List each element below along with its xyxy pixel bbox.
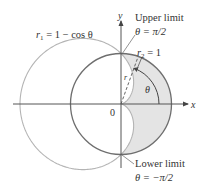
- upper-limit-leader: [122, 35, 135, 54]
- radius-label: r: [124, 73, 128, 82]
- lower-limit-leader: [122, 155, 134, 164]
- theta-label: θ: [145, 84, 150, 95]
- circle-label: r2 = 1: [137, 47, 161, 60]
- origin-label: 0: [110, 107, 115, 118]
- cardioid-label: r1 = 1 − cos θ: [36, 29, 93, 42]
- upper-limit-title: Upper limit: [135, 12, 184, 23]
- lower-limit-title: Lower limit: [135, 158, 185, 169]
- lower-limit-value: θ = −π/2: [135, 172, 174, 183]
- y-axis-label: y: [117, 10, 123, 21]
- upper-limit-value: θ = π/2: [135, 26, 167, 37]
- polar-area-diagram: y x 0 Upper limit θ = π/2 Lower limit θ …: [0, 0, 208, 191]
- x-axis-label: x: [190, 99, 196, 110]
